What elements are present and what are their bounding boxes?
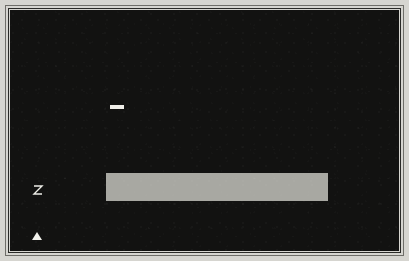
- stats-row-bottom: [106, 187, 328, 201]
- stats-row-top: [106, 173, 328, 187]
- chart-page: [0, 0, 409, 261]
- chart-svg: [10, 10, 399, 251]
- chart-panel: [10, 10, 399, 251]
- series-label: [110, 105, 124, 109]
- plot-area: [10, 10, 399, 251]
- axis-break-zigzag-icon: [34, 186, 42, 194]
- up-triangle-icon: [32, 232, 42, 240]
- units-legend: [32, 232, 46, 240]
- stats-callout-panel: [106, 173, 328, 201]
